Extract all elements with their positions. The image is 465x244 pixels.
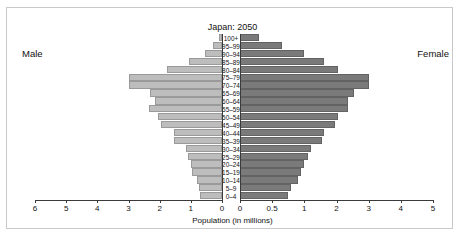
bar-female-30-34	[240, 145, 311, 152]
age-label-40-44: 40–44	[222, 129, 240, 136]
age-label-50-54: 50–54	[222, 114, 240, 121]
age-label-20-24: 20–24	[222, 161, 240, 168]
age-label-55-59: 55–59	[222, 106, 240, 113]
bar-female-15-19	[240, 168, 301, 175]
bar-male-30-34	[186, 145, 222, 152]
bar-female-40-44	[240, 129, 324, 136]
female-axis-1-tick	[304, 200, 305, 203]
bar-female-35-39	[240, 137, 322, 144]
age-label-70-74: 70–74	[222, 82, 240, 89]
female-axis-0-5-tick-label: 0.5	[267, 204, 278, 213]
female-axis-5-tick-label: 5	[431, 204, 435, 213]
bar-female-10-14	[240, 176, 298, 183]
male-axis-4-tick	[97, 200, 98, 203]
male-axis-6-tick-label: 6	[33, 204, 37, 213]
female-axis-0-tick	[240, 200, 241, 203]
age-label-75-79: 75–79	[222, 74, 240, 81]
bar-male-10-14	[197, 176, 222, 183]
bar-male-85-89	[189, 58, 222, 65]
bar-male-35-39	[174, 137, 222, 144]
bar-female-65-69	[240, 89, 354, 96]
bar-male-45-49	[161, 121, 222, 128]
bar-male-75-79	[129, 74, 223, 81]
bar-female-60-64	[240, 97, 348, 104]
bar-male-70-74	[129, 81, 223, 88]
bar-female-85-89	[240, 58, 324, 65]
male-axis-0-tick	[222, 200, 223, 203]
female-axis-2-tick	[337, 200, 338, 203]
age-label-25-29: 25–29	[222, 153, 240, 160]
female-axis-1-tick-label: 1	[302, 204, 306, 213]
bar-female-80-84	[240, 66, 338, 73]
female-axis-4-tick-label: 4	[399, 204, 403, 213]
population-pyramid-chart: Japan: 2050 Male Female 100+95–9990–9485…	[0, 0, 465, 244]
male-axis-3-tick	[129, 200, 130, 203]
bar-female-45-49	[240, 121, 335, 128]
bar-male-0-4	[200, 192, 222, 199]
bar-male-65-69	[150, 89, 222, 96]
bar-female-75-79	[240, 74, 369, 81]
male-axis-1-tick-label: 1	[189, 204, 193, 213]
bar-male-5-9	[199, 184, 222, 191]
age-label-10-14: 10–14	[222, 177, 240, 184]
age-label-60-64: 60–64	[222, 98, 240, 105]
bar-male-25-29	[188, 153, 222, 160]
age-label-35-39: 35–39	[222, 137, 240, 144]
male-axis-6-tick	[35, 200, 36, 203]
male-axis-0-tick-label: 0	[220, 204, 224, 213]
bar-female-50-54	[240, 113, 338, 120]
male-axis-5-tick	[66, 200, 67, 203]
age-label-30-34: 30–34	[222, 145, 240, 152]
bar-female-100+	[240, 34, 259, 41]
age-label-65-69: 65–69	[222, 90, 240, 97]
bar-male-80-84	[167, 66, 222, 73]
bar-male-90-94	[205, 50, 222, 57]
male-series-label: Male	[22, 48, 43, 59]
bar-female-95-99	[240, 42, 282, 49]
age-label-45-49: 45–49	[222, 121, 240, 128]
female-axis-3-tick-label: 3	[366, 204, 370, 213]
age-label-95-99: 95–99	[222, 42, 240, 49]
bar-male-20-24	[191, 160, 222, 167]
male-axis-3-tick-label: 3	[126, 204, 130, 213]
age-label-5-9: 5–9	[222, 185, 240, 192]
female-zero-axis	[240, 34, 241, 200]
female-axis-4-tick	[401, 200, 402, 203]
male-axis-4-tick-label: 4	[95, 204, 99, 213]
bar-male-15-19	[192, 168, 222, 175]
male-axis-1-tick	[191, 200, 192, 203]
bar-female-25-29	[240, 153, 308, 160]
bar-female-20-24	[240, 160, 304, 167]
age-label-80-84: 80–84	[222, 66, 240, 73]
female-axis-0-tick-label: 0	[238, 204, 242, 213]
female-axis-0-5-tick	[272, 200, 273, 203]
male-axis-2-tick-label: 2	[157, 204, 161, 213]
female-axis-5-tick	[433, 200, 434, 203]
bar-female-0-4	[240, 192, 288, 199]
age-label-15-19: 15–19	[222, 169, 240, 176]
age-label-100+: 100+	[222, 34, 240, 41]
age-label-0-4: 0–4	[222, 193, 240, 200]
age-label-85-89: 85–89	[222, 58, 240, 65]
bar-male-40-44	[174, 129, 222, 136]
bar-male-50-54	[158, 113, 222, 120]
bar-female-70-74	[240, 81, 369, 88]
male-axis-2-tick	[160, 200, 161, 203]
bar-female-55-59	[240, 105, 348, 112]
female-series-label: Female	[417, 48, 449, 59]
bar-male-95-99	[213, 42, 222, 49]
bar-male-60-64	[155, 97, 222, 104]
age-label-90-94: 90–94	[222, 50, 240, 57]
bar-female-5-9	[240, 184, 291, 191]
female-axis-3-tick	[369, 200, 370, 203]
x-axis-label: Population (in millions)	[0, 216, 465, 225]
male-axis-5-tick-label: 5	[64, 204, 68, 213]
male-zero-axis	[222, 34, 223, 200]
female-axis-2-tick-label: 2	[334, 204, 338, 213]
bar-male-55-59	[149, 105, 222, 112]
bar-female-90-94	[240, 50, 304, 57]
